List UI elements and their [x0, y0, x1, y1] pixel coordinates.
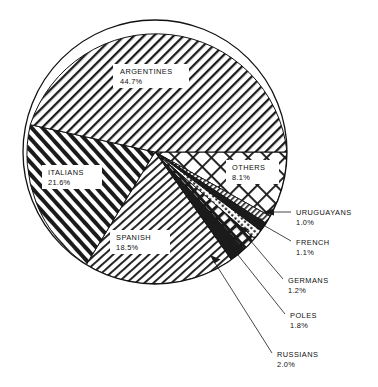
leader-line-germans [244, 233, 283, 279]
label-french-value: 1.1% [296, 248, 314, 257]
label-spanish-name: SPANISH [116, 233, 151, 242]
inside-label-italians: ITALIANS 21.6% [42, 165, 102, 189]
callout-label-uruguayans: URUGUAYANS 1.0% [296, 208, 352, 227]
label-spanish-value: 18.5% [116, 243, 139, 252]
label-poles-value: 1.8% [290, 321, 308, 330]
pie-chart-svg: ARGENTINES 44.7% ITALIANS 21.6% SPANISH … [0, 0, 378, 387]
label-argentines-value: 44.7% [120, 77, 143, 86]
label-uruguayans-name: URUGUAYANS [296, 208, 352, 217]
inside-label-others: OTHERS 8.1% [226, 160, 279, 184]
callout-label-germans: GERMANS 1.2% [288, 276, 329, 295]
label-russians-name: RUSSIANS [277, 350, 318, 359]
leader-line-russians [215, 263, 272, 353]
label-others-name: OTHERS [232, 163, 266, 172]
leader-line-poles [230, 245, 285, 314]
label-italians-name: ITALIANS [48, 168, 84, 177]
label-uruguayans-value: 1.0% [296, 218, 314, 227]
label-argentines-name: ARGENTINES [120, 67, 173, 76]
label-italians-value: 21.6% [48, 178, 71, 187]
label-russians-value: 2.0% [277, 360, 295, 369]
label-french-name: FRENCH [296, 238, 330, 247]
label-germans-name: GERMANS [288, 276, 329, 285]
leader-line-french [258, 222, 291, 241]
pie-chart-figure: ARGENTINES 44.7% ITALIANS 21.6% SPANISH … [0, 0, 378, 387]
label-germans-value: 1.2% [288, 286, 306, 295]
callout-label-french: FRENCH 1.1% [296, 238, 330, 257]
inside-label-spanish: SPANISH 18.5% [110, 230, 170, 254]
inside-label-argentines: ARGENTINES 44.7% [113, 64, 189, 88]
label-others-value: 8.1% [232, 173, 250, 182]
callout-label-russians: RUSSIANS 2.0% [277, 350, 318, 369]
label-poles-name: POLES [290, 311, 317, 320]
callout-label-poles: POLES 1.8% [290, 311, 317, 330]
